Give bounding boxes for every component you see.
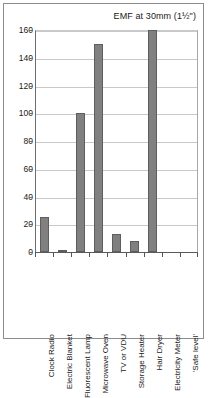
- chart-card: EMF at 30mm (1½") 020406080100120140160 …: [3, 3, 204, 339]
- bar-6: [148, 30, 157, 252]
- category-axis: [35, 252, 198, 257]
- category-label-6: Hair Dryer: [156, 334, 164, 370]
- bar-5: [130, 241, 139, 252]
- category-label-4: TV or VDU: [120, 334, 128, 373]
- category-labels: Clock RadioElectric BlanketFluorescent L…: [35, 258, 198, 336]
- category-tick-end: [197, 252, 198, 257]
- category-tick-3: [89, 252, 90, 257]
- category-label-1: Electric Blanket: [66, 334, 74, 389]
- category-label-7: Electricity Meter: [174, 334, 182, 391]
- y-tick-mark-80: [29, 141, 33, 142]
- category-label-3: Microwave Oven: [102, 334, 110, 394]
- y-tick-mark-100: [29, 113, 33, 114]
- category-tick-4: [107, 252, 108, 257]
- category-tick-8: [180, 252, 181, 257]
- y-tick-mark-60: [29, 169, 33, 170]
- category-tick-5: [126, 252, 127, 257]
- category-label-0: Clock Radio: [48, 334, 56, 377]
- category-label-8: 'Safe level': [192, 334, 200, 372]
- category-tick-7: [162, 252, 163, 257]
- bar-2: [76, 113, 85, 252]
- category-tick-6: [144, 252, 145, 257]
- y-tick-mark-140: [29, 58, 33, 59]
- y-axis: 020406080100120140160: [4, 30, 33, 252]
- bar-4: [112, 234, 121, 252]
- category-tick-0: [35, 252, 36, 257]
- y-tick-mark-0: [29, 252, 33, 253]
- category-tick-2: [71, 252, 72, 257]
- bars-layer: [35, 30, 198, 252]
- category-label-2: Fluorescent Lamp: [84, 334, 92, 398]
- category-label-5: Storage Heater: [138, 334, 146, 388]
- bar-3: [94, 44, 103, 252]
- y-tick-mark-20: [29, 224, 33, 225]
- y-tick-mark-40: [29, 197, 33, 198]
- y-tick-mark-160: [29, 30, 33, 31]
- y-tick-mark-120: [29, 86, 33, 87]
- bar-0: [40, 217, 49, 252]
- chart-title: EMF at 30mm (1½"): [114, 11, 196, 21]
- category-tick-1: [53, 252, 54, 257]
